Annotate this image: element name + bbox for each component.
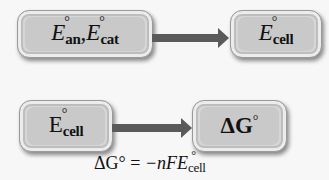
arrow-right-icon (152, 34, 219, 42)
box-electrode-potentials: E°an,E°cat (17, 10, 153, 58)
box-gibbs-energy: ΔG° (192, 100, 287, 152)
gibbs-equation: ΔG° = −nFE°cell (94, 153, 206, 176)
arrow-right-icon (112, 124, 182, 132)
gibbs-energy-label: ΔG° (221, 113, 259, 139)
box-cell-potential-2: E°cell (19, 100, 113, 152)
cell-potential-label: E°cell (259, 20, 294, 48)
electrode-potentials-label: E°an,E°cat (51, 20, 118, 48)
cell-potential-label-2: E°cell (49, 112, 84, 140)
box-cell-potential: E°cell (230, 10, 322, 58)
